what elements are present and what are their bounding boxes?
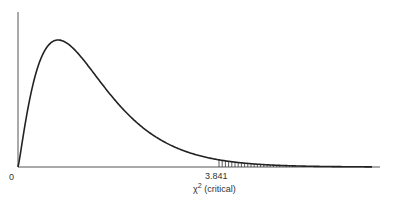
axis-text: (critical) [204,184,236,194]
x-axis-label: χ2 (critical) [193,182,236,194]
exponent: 2 [198,182,202,189]
chi-square-chart [0,0,393,207]
origin-label: 0 [9,172,14,182]
density-curve [18,40,372,167]
critical-value-label: 3.841 [205,171,228,181]
